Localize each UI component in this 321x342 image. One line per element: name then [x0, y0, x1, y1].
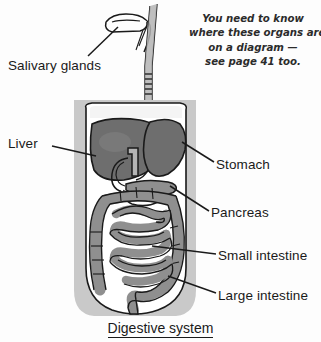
study-note-line-4: see page 41 too. — [189, 55, 317, 69]
figure-caption: Digestive system — [0, 320, 321, 336]
oesophagus-fill — [145, 4, 157, 100]
label-stomach: Stomach — [216, 157, 270, 172]
liver-highlight — [99, 132, 131, 152]
figure-caption-text: Digestive system — [108, 320, 214, 338]
study-note-line-2: where these organs are — [189, 26, 317, 40]
study-note-line-1: You need to know — [189, 12, 317, 26]
study-note: You need to know where these organs are … — [189, 12, 317, 70]
label-small-intestine: Small intestine — [218, 248, 307, 263]
digestive-system-figure: Salivary glands Liver Stomach Pancreas S… — [0, 0, 321, 342]
torso-top-highlight — [90, 106, 182, 118]
study-note-line-3: on a diagram — — [189, 41, 317, 55]
label-salivary-glands: Salivary glands — [8, 58, 101, 73]
label-large-intestine: Large intestine — [218, 288, 308, 303]
label-liver: Liver — [8, 136, 38, 151]
label-pancreas: Pancreas — [211, 205, 269, 220]
leader-salivary-glands — [88, 27, 118, 56]
